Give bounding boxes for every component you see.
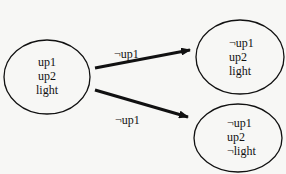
state-literal: up2	[229, 50, 247, 64]
state-node-initial: up1 up2 light	[4, 40, 90, 114]
state-literal: ¬up1	[227, 116, 252, 130]
edge-label: ¬up1	[114, 47, 139, 61]
edge-label: ¬up1	[115, 113, 140, 127]
state-literal: light	[36, 83, 59, 97]
arrow-icon	[95, 90, 188, 117]
state-literal: up2	[227, 130, 245, 144]
state-literal: up2	[38, 69, 56, 83]
state-literal: ¬up1	[229, 36, 254, 50]
state-literal: ¬light	[227, 144, 256, 158]
diagram-svg: up1 up2 light ¬up1 up2 light ¬up1 up2 ¬l…	[0, 0, 286, 174]
state-literal: up1	[38, 55, 56, 69]
transition-edge-bottom: ¬up1	[95, 90, 188, 127]
state-literal: light	[229, 64, 252, 78]
transition-edge-top: ¬up1	[95, 47, 190, 68]
state-node-bottom-right: ¬up1 up2 ¬light	[194, 104, 282, 172]
arrow-icon	[95, 50, 190, 68]
state-diagram: up1 up2 light ¬up1 up2 light ¬up1 up2 ¬l…	[0, 0, 286, 174]
state-node-top-right: ¬up1 up2 light	[196, 20, 284, 94]
